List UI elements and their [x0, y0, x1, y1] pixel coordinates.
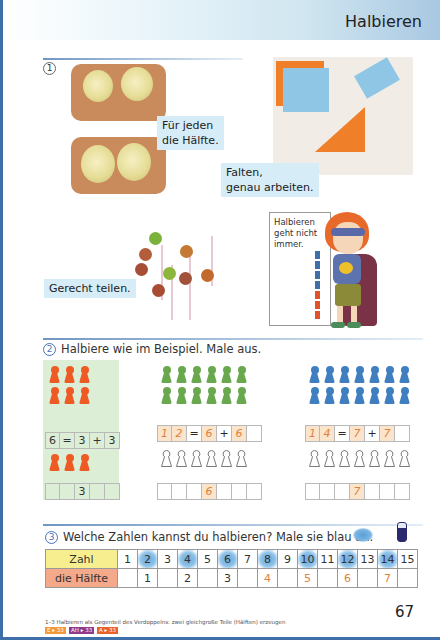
equation-cell[interactable]: +: [90, 432, 105, 449]
half-answer-cell[interactable]: [320, 483, 335, 500]
equation-cell[interactable]: +: [365, 425, 380, 442]
number-cell[interactable]: 7: [238, 550, 258, 569]
number-cell[interactable]: 6: [218, 550, 238, 569]
half-cell[interactable]: [238, 569, 258, 588]
pawn-outline-icon[interactable]: [399, 450, 410, 467]
half-answer-cell[interactable]: [105, 483, 120, 500]
equation-cell[interactable]: =: [335, 425, 350, 442]
pawn-icon: [206, 387, 217, 404]
row-label-zahl: Zahl: [46, 550, 118, 569]
reference-badge: A ▸ 33: [97, 627, 118, 634]
pawn-outline-icon[interactable]: [324, 450, 335, 467]
number-cell[interactable]: 15: [398, 550, 418, 569]
half-cell[interactable]: 4: [258, 569, 278, 588]
pawn-outline-icon[interactable]: [309, 450, 320, 467]
pawn-outline-icon[interactable]: [339, 450, 350, 467]
apple-half-icon: [121, 67, 153, 101]
half-answer-cell[interactable]: [247, 483, 262, 500]
equation-cell[interactable]: +: [217, 425, 232, 442]
equation-cell[interactable]: 7: [350, 425, 365, 442]
number-cell[interactable]: 2: [138, 550, 158, 569]
equation-cell[interactable]: 6: [202, 425, 217, 442]
pawn-outline-icon[interactable]: [221, 450, 232, 467]
equation-cell[interactable]: 6: [45, 432, 60, 449]
number-cell[interactable]: 4: [178, 550, 198, 569]
half-answer-cell[interactable]: [395, 483, 410, 500]
half-cell[interactable]: [318, 569, 338, 588]
equation-cell[interactable]: 7: [380, 425, 395, 442]
folded-rectangle-icon: [354, 57, 400, 99]
equation-cell[interactable]: 3: [75, 432, 90, 449]
equation-cell[interactable]: 1: [305, 425, 320, 442]
equation-cell[interactable]: [395, 425, 410, 442]
pawn-outline-icon[interactable]: [384, 450, 395, 467]
number-cell[interactable]: 3: [158, 550, 178, 569]
pawn-outline-icon[interactable]: [191, 450, 202, 467]
number-cell[interactable]: 8: [258, 550, 278, 569]
pawn-icon: [354, 387, 365, 404]
half-cell[interactable]: 6: [338, 569, 358, 588]
number-cell[interactable]: 13: [358, 550, 378, 569]
pawn-outline-icon[interactable]: [206, 450, 217, 467]
half-answer-cell[interactable]: 3: [75, 483, 90, 500]
pawn-icon: [221, 366, 232, 383]
pawn-outline-icon[interactable]: [176, 450, 187, 467]
number-cell[interactable]: 14: [378, 550, 398, 569]
pawn-outline-icon[interactable]: [369, 450, 380, 467]
half-answer-cell[interactable]: [45, 483, 60, 500]
equation-cell[interactable]: 2: [172, 425, 187, 442]
number-cell[interactable]: 12: [338, 550, 358, 569]
half-cell[interactable]: 3: [218, 569, 238, 588]
half-answer-cell[interactable]: [335, 483, 350, 500]
equation-cell[interactable]: =: [60, 432, 75, 449]
half-answer-cell[interactable]: 6: [202, 483, 217, 500]
half-answer-cell[interactable]: [232, 483, 247, 500]
half-cell[interactable]: [398, 569, 418, 588]
half-answer-cell[interactable]: [217, 483, 232, 500]
number-cell[interactable]: 11: [318, 550, 338, 569]
half-cell[interactable]: [278, 569, 298, 588]
equation-cell[interactable]: [247, 425, 262, 442]
half-cell[interactable]: 5: [298, 569, 318, 588]
blue-scribble-icon: [353, 528, 373, 542]
half-cell[interactable]: 2: [178, 569, 198, 588]
folded-paper-photo: [273, 57, 413, 175]
task-number-2: 2: [43, 343, 56, 356]
half-cell[interactable]: 7: [378, 569, 398, 588]
half-answer-cell[interactable]: [172, 483, 187, 500]
reference-badge: E ▸ 33: [45, 627, 66, 634]
table-row-numbers: Zahl 123456789101112131415: [46, 550, 418, 569]
equation-cell[interactable]: 3: [105, 432, 120, 449]
number-cell[interactable]: 9: [278, 550, 298, 569]
half-answer-cell[interactable]: [60, 483, 75, 500]
number-cell[interactable]: 10: [298, 550, 318, 569]
caption-folding: Falten, genau arbeiten.: [221, 163, 319, 197]
half-cell[interactable]: [158, 569, 178, 588]
pawn-icon: [49, 387, 60, 404]
number-cell[interactable]: 1: [118, 550, 138, 569]
pawn-outline-icon[interactable]: [354, 450, 365, 467]
half-answer-cell[interactable]: [380, 483, 395, 500]
half-answer-cell[interactable]: [365, 483, 380, 500]
half-cell[interactable]: 1: [138, 569, 158, 588]
pawn-icon: [79, 454, 90, 471]
equation-cell[interactable]: =: [187, 425, 202, 442]
pawn-outline-icon[interactable]: [161, 450, 172, 467]
half-cell[interactable]: [198, 569, 218, 588]
half-cell[interactable]: [118, 569, 138, 588]
half-answer-cell[interactable]: 7: [350, 483, 365, 500]
equation-cell[interactable]: 1: [157, 425, 172, 442]
task-3-instruction: Welche Zahlen kannst du halbieren? Male …: [63, 530, 373, 544]
half-cell[interactable]: [358, 569, 378, 588]
pawn-icon: [161, 387, 172, 404]
number-cell[interactable]: 5: [198, 550, 218, 569]
half-answer-cell[interactable]: [90, 483, 105, 500]
pawn-outline-icon[interactable]: [236, 450, 247, 467]
page-title: Halbieren: [345, 12, 422, 31]
half-answer-cell[interactable]: [305, 483, 320, 500]
equation-cell[interactable]: 4: [320, 425, 335, 442]
equation-cell[interactable]: 6: [232, 425, 247, 442]
half-answer-cell[interactable]: [187, 483, 202, 500]
half-answer-cell[interactable]: [157, 483, 172, 500]
pawn-icon: [236, 387, 247, 404]
